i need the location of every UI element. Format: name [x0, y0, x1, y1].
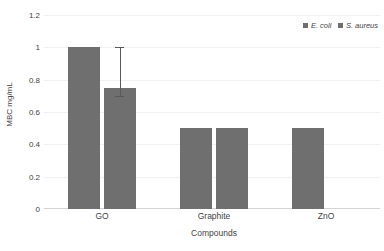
x-cat-label-graphite: Graphite — [198, 211, 231, 221]
x-axis-title: Compounds — [44, 228, 384, 238]
error-bar-cap-upper-go-s-aureus — [115, 47, 124, 48]
x-cat-label-go: GO — [95, 211, 108, 221]
error-bar-cap-lower-go-s-aureus — [115, 96, 124, 97]
y-tick-label-1: 1 — [6, 43, 44, 52]
y-tick-label-0-6: 0.6 — [6, 108, 44, 117]
y-tick-label-1-2: 1.2 — [6, 11, 44, 20]
error-bar-line-go-s-aureus — [120, 47, 121, 96]
y-tick-label-0-2: 0.2 — [6, 172, 44, 181]
bar-graphite-s-aureus — [216, 128, 248, 209]
x-axis-category-labels: GO Graphite ZnO — [44, 211, 380, 225]
bar-zno-e-coli — [292, 128, 324, 209]
bar-go-s-aureus — [104, 88, 136, 209]
bar-chart: E. coli S. aureus MBC mg/mL 0 0.2 0.4 0.… — [0, 0, 384, 251]
plot-area — [44, 15, 380, 209]
y-tick-label-0-8: 0.8 — [6, 75, 44, 84]
bar-graphite-e-coli — [180, 128, 212, 209]
y-tick-label-0: 0 — [6, 205, 44, 214]
y-axis-ticks: 0 0.2 0.4 0.6 0.8 1 1.2 — [0, 15, 44, 209]
bar-go-e-coli — [68, 47, 100, 209]
gridline — [44, 15, 380, 16]
y-tick-label-0-4: 0.4 — [6, 140, 44, 149]
x-cat-label-zno: ZnO — [318, 211, 335, 221]
